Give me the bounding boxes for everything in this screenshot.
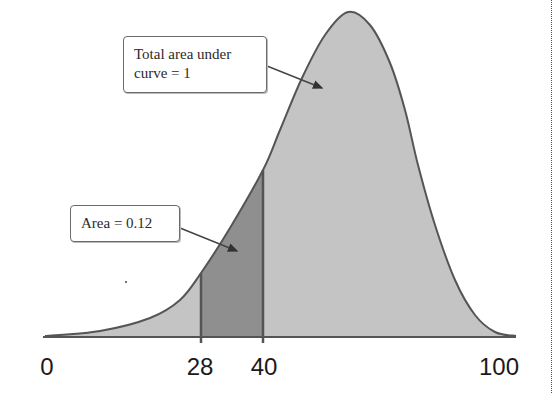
density-chart: 0 28 40 100 <box>0 0 558 393</box>
curve-area-fill <box>45 12 516 337</box>
callout-total-line1: Total area under <box>134 45 256 64</box>
tick-label-40: 40 <box>251 353 278 380</box>
callout-total-line2: curve = 1 <box>134 64 256 83</box>
callout-shaded-area: Area = 0.12 <box>70 205 180 242</box>
callout-area-text: Area = 0.12 <box>81 215 152 231</box>
dotted-right-border <box>551 0 552 393</box>
tick-label-0: 0 <box>40 353 53 380</box>
stray-dot <box>125 281 127 283</box>
callout-total-area: Total area under curve = 1 <box>123 36 267 93</box>
tick-label-100: 100 <box>479 353 519 380</box>
tick-label-28: 28 <box>187 353 214 380</box>
